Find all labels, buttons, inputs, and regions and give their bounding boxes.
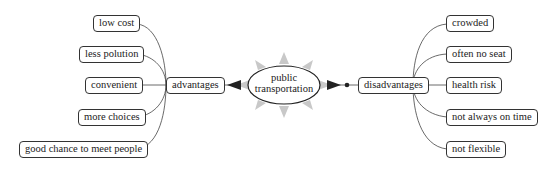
central-topic-line1: public xyxy=(248,72,320,83)
central-topic[interactable]: public transportation xyxy=(248,64,320,104)
disadvantages-node[interactable]: disadvantages xyxy=(358,77,429,94)
advantage-item[interactable]: convenient xyxy=(85,77,143,94)
disadvantage-item[interactable]: not always on time xyxy=(446,109,538,126)
advantage-item[interactable]: low cost xyxy=(93,15,140,32)
disadvantage-item[interactable]: often no seat xyxy=(446,46,512,63)
disadvantage-item[interactable]: crowded xyxy=(446,15,494,32)
advantage-item[interactable]: good chance to meet people xyxy=(19,141,148,158)
advantages-node[interactable]: advantages xyxy=(166,77,225,94)
central-topic-line2: transportation xyxy=(248,83,320,94)
disadvantage-item[interactable]: health risk xyxy=(446,77,502,94)
disadvantage-item[interactable]: not flexible xyxy=(446,141,506,158)
advantage-item[interactable]: less polution xyxy=(79,46,144,63)
advantage-item[interactable]: more choices xyxy=(78,109,146,126)
